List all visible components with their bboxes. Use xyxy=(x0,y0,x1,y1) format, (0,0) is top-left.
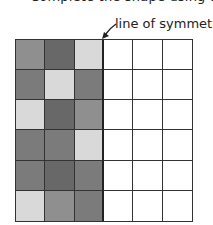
grid-cell-empty[interactable] xyxy=(104,130,133,160)
grid-cell-empty[interactable] xyxy=(104,191,133,221)
grid-cell-empty[interactable] xyxy=(104,70,133,100)
grid-cell-empty[interactable] xyxy=(163,130,192,160)
grid-cell-shaded xyxy=(75,70,104,100)
grid-cell-empty[interactable] xyxy=(133,100,162,130)
grid-cell-empty[interactable] xyxy=(104,100,133,130)
grid-cell-empty[interactable] xyxy=(163,40,192,70)
grid-cell-shaded xyxy=(45,100,74,130)
grid-cell-empty[interactable] xyxy=(133,130,162,160)
grid-cell-shaded xyxy=(16,130,45,160)
grid-cell-shaded xyxy=(45,191,74,221)
grid-cell-shaded xyxy=(16,70,45,100)
grid-cell-shaded xyxy=(16,40,45,70)
grid-cell-empty[interactable] xyxy=(104,161,133,191)
grid-cell-shaded xyxy=(75,40,104,70)
grid-cell-shaded xyxy=(45,130,74,160)
grid-cell-shaded xyxy=(75,191,104,221)
grid-cell-shaded xyxy=(45,40,74,70)
grid-cell-shaded xyxy=(45,70,74,100)
grid-cell-shaded xyxy=(16,191,45,221)
grid-cell-shaded xyxy=(16,161,45,191)
grid-cell-shaded xyxy=(75,100,104,130)
grid-cell-empty[interactable] xyxy=(163,191,192,221)
grid-cell-empty[interactable] xyxy=(104,40,133,70)
instruction-text-cut-off: Complete the shape using the given line … xyxy=(30,0,213,4)
grid-cell-empty[interactable] xyxy=(133,191,162,221)
grid-cell-shaded xyxy=(75,130,104,160)
grid-cell-empty[interactable] xyxy=(163,161,192,191)
grid-cell-empty[interactable] xyxy=(133,40,162,70)
grid-cell-shaded xyxy=(16,100,45,130)
grid-cell-shaded xyxy=(75,161,104,191)
grid-cell-empty[interactable] xyxy=(133,161,162,191)
symmetry-line-label: line of symmetry xyxy=(115,16,213,31)
symmetry-grid xyxy=(15,39,193,222)
grid-cell-shaded xyxy=(45,161,74,191)
grid-cell-empty[interactable] xyxy=(163,100,192,130)
grid-cell-empty[interactable] xyxy=(163,70,192,100)
grid-cell-empty[interactable] xyxy=(133,70,162,100)
